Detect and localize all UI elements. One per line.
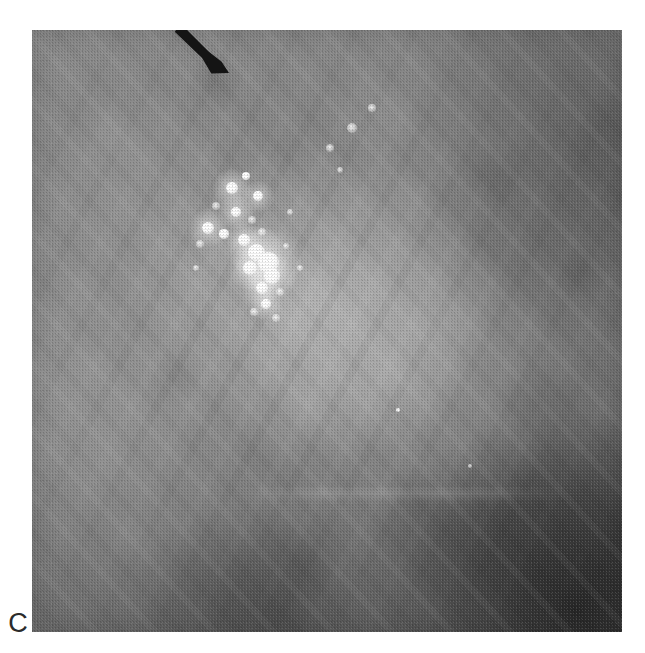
calcification-particle [242,172,250,180]
halftone-scanline-layer [32,30,622,632]
calcification-halo [189,209,227,247]
calcification-particle [219,229,228,238]
calcification-particle [272,314,280,322]
calcification-halo [219,195,252,228]
ductal-streak-layer-a [32,30,622,632]
calcification-particle [256,282,268,294]
calcification-halo [213,169,250,206]
calcification-particle [287,209,293,215]
ductal-streak-layer-b [32,30,622,632]
calcification-particle [337,167,344,174]
calcification-particle [468,464,472,468]
calcification-particle [396,408,400,412]
calcification-halo [228,246,271,289]
calcification-particle [261,299,271,309]
parenchyma-tone-layer [32,30,622,632]
glandular-mottle-layer [32,30,622,632]
calcification-particle [243,261,257,275]
calcification-particle [250,308,257,315]
film-grain-layer [32,30,622,632]
calcification-particle [248,216,255,223]
arrow-polygon [175,30,229,73]
calcification-particle [258,228,267,237]
calcification-particle [347,123,357,133]
horizontal-streak-layer [32,30,622,632]
plate-vignette [32,30,622,632]
calcification-particle [276,288,285,297]
calcification-particle [226,182,238,194]
calcification-halo [248,252,296,300]
calcification-particle [326,144,334,152]
calcification-particle [253,191,263,201]
calcification-halo [226,222,262,258]
calcification-particle [238,234,250,246]
calcification-particle [193,265,199,271]
mammogram-image [32,30,622,632]
figure-panel: C [0,0,645,653]
calcification-particle [212,202,220,210]
calcification-particle [297,265,303,271]
calcification-halo [230,226,283,279]
panel-letter-label: C [5,606,31,640]
calcification-particle [231,207,242,218]
calcification-particle [202,222,214,234]
calcification-halo [235,229,300,294]
microcalcification-cluster [32,30,622,632]
calcification-particle [258,252,279,273]
calcification-halo [243,181,274,212]
arrow-icon [32,30,622,632]
calcification-halo [243,269,280,306]
calcification-halo [250,288,282,320]
calcification-particle [368,104,375,111]
calcification-particle [248,244,265,261]
calcification-particle [264,268,280,284]
fibrous-band-layer [32,30,622,632]
calcification-particle [196,240,204,248]
calcification-particle [283,243,290,250]
